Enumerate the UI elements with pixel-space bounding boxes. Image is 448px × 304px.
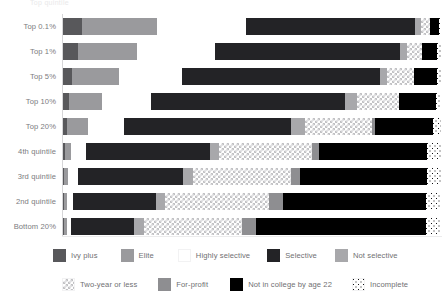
swatch-selective-icon [267,249,280,262]
bar-segment-two-year-or-less [219,143,312,160]
stacked-bar [63,118,441,135]
bar-segment-selective [246,18,415,35]
swatch-highly-selective-icon [178,249,191,262]
legend-item-incomplete[interactable]: Incomplete [352,278,408,291]
legend-item-ivy-plus[interactable]: Ivy plus [53,249,98,262]
bar-segment-two-year-or-less [421,18,430,35]
bar-row: Top 0.1% [0,14,448,39]
bar-segment-two-year-or-less [165,193,269,210]
category-label: Top 1% [0,39,56,64]
legend-item-not-selective[interactable]: Not selective [335,249,398,262]
legend-label: Elite [139,251,154,260]
stacked-bar [63,218,441,235]
category-label: 4th quintile [0,139,56,164]
legend-item-two-year-or-less[interactable]: Two-year or less [62,278,137,291]
bar-segment-highly-selective [68,168,78,185]
bar-row: 2nd quintile [0,189,448,214]
bar-row: Top 20% [0,114,448,139]
bar-segment-selective [215,43,399,60]
legend-item-elite[interactable]: Elite [121,249,154,262]
bar-segment-incomplete [426,193,441,210]
legend-item-for-profit[interactable]: For-profit [158,278,208,291]
bar-segment-incomplete [427,143,441,160]
category-label: 2nd quintile [0,189,56,214]
stacked-bar-chart: Top quintile Top 0.1%Top 1%Top 5%Top 10%… [0,0,448,304]
bar-segment-not-in-college-by-age-22 [300,168,427,185]
bar-segment-for-profit [312,143,320,160]
bar-segment-not-in-college-by-age-22 [283,193,426,210]
bar-segment-selective [78,168,184,185]
bar-segment-highly-selective [119,68,182,85]
bar-segment-not-selective [183,168,193,185]
bar-segment-two-year-or-less [193,168,291,185]
bar-segment-not-selective [291,118,304,135]
legend-item-selective[interactable]: Selective [267,249,317,262]
chart-legend: Ivy plusEliteHighly selectiveSelectiveNo… [0,243,448,301]
bar-segment-not-selective [156,193,166,210]
legend-label: Not in college by age 22 [248,280,332,289]
bar-segment-two-year-or-less [357,93,399,110]
bar-segment-not-in-college-by-age-22 [430,18,439,35]
bar-segment-not-selective [134,218,144,235]
stacked-bar [63,43,441,60]
bar-segment-for-profit [269,193,283,210]
bar-row: Top 5% [0,64,448,89]
swatch-not-selective-icon [335,249,348,262]
bar-segment-elite [72,68,119,85]
bar-segment-incomplete [436,93,441,110]
bar-segment-not-in-college-by-age-22 [375,118,433,135]
swatch-two-year-or-less-icon [62,278,75,291]
legend-label: Ivy plus [71,251,98,260]
stacked-bar [63,193,441,210]
bar-segment-highly-selective [102,93,151,110]
legend-label: Not selective [353,251,398,260]
bar-segment-highly-selective [157,18,247,35]
legend-item-not-in-college-by-age-22[interactable]: Not in college by age 22 [230,278,332,291]
bar-segment-elite [78,43,137,60]
legend-row-secondary: Two-year or lessFor-profitNot in college… [0,272,448,296]
bar-segment-not-in-college-by-age-22 [422,43,437,60]
bar-segment-incomplete [433,118,441,135]
category-label: Top 0.1% [0,14,56,39]
bar-row: Bottom 20% [0,214,448,239]
bar-segment-selective [182,68,380,85]
bar-segment-selective [124,118,291,135]
bar-segment-not-in-college-by-age-22 [399,93,436,110]
bar-segment-selective [73,193,156,210]
bar-segment-not-selective [400,43,407,60]
bar-segment-ivy-plus [63,68,72,85]
legend-item-highly-selective[interactable]: Highly selective [178,249,250,262]
bar-row: 3rd quintile [0,164,448,189]
bar-segment-two-year-or-less [144,218,242,235]
stacked-bar [63,18,441,35]
bar-segment-not-in-college-by-age-22 [319,143,427,160]
stacked-bar [63,93,441,110]
bar-segment-elite [69,93,102,110]
swatch-elite-icon [121,249,134,262]
stacked-bar [63,143,441,160]
bar-segment-selective [71,218,135,235]
bar-segment-incomplete [427,168,441,185]
bar-segment-for-profit [291,168,301,185]
bar-segment-incomplete [439,18,441,35]
category-label: Top 5% [0,64,56,89]
category-label: Bottom 20% [0,214,56,239]
bar-segment-selective [86,143,209,160]
bar-segment-elite [82,18,157,35]
legend-label: Two-year or less [80,280,137,289]
bar-segment-incomplete [437,43,441,60]
bar-segment-not-selective [345,93,357,110]
bar-segment-elite [67,118,88,135]
bar-segment-highly-selective [137,43,215,60]
swatch-ivy-plus-icon [53,249,66,262]
bar-segment-ivy-plus [63,43,78,60]
bar-row: Top 1% [0,39,448,64]
bar-segment-two-year-or-less [407,43,422,60]
category-label: Top 20% [0,114,56,139]
plot-area: Top 0.1%Top 1%Top 5%Top 10%Top 20%4th qu… [0,14,448,240]
stacked-bar [63,168,441,185]
legend-row-primary: Ivy plusEliteHighly selectiveSelectiveNo… [0,243,448,267]
swatch-not-in-college-icon [230,278,243,291]
bar-segment-not-selective [380,68,388,85]
cropped-top-text: Top quintile [30,0,230,8]
